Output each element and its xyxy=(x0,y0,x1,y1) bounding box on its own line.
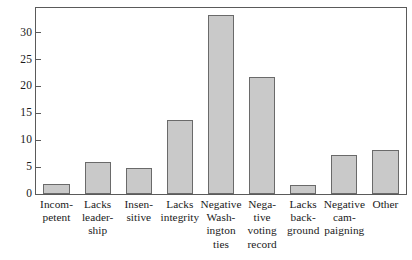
bar xyxy=(126,168,152,194)
y-axis-tick-mark xyxy=(35,167,41,168)
x-axis-category-label: Insen- sitive xyxy=(118,198,159,224)
bar xyxy=(331,155,357,194)
bar xyxy=(85,162,111,194)
y-axis-tick-label: 25 xyxy=(0,54,32,66)
y-axis-tick-mark xyxy=(35,113,41,114)
bar xyxy=(249,77,275,194)
x-axis-category-label: Negative cam- paigning xyxy=(324,198,365,238)
x-axis-category-labels: Incom- petentLacks leader- shipInsen- si… xyxy=(36,198,406,258)
y-axis-tick-mark xyxy=(35,32,41,33)
x-axis-category-label: Lacks integrity xyxy=(159,198,200,224)
y-axis-tick-label: 30 xyxy=(0,27,32,39)
y-axis-tick-label: 15 xyxy=(0,108,32,120)
bar xyxy=(372,150,398,194)
bar xyxy=(208,15,234,194)
x-axis-category-label: Other xyxy=(365,198,406,211)
plot-area xyxy=(36,8,406,194)
y-axis-tick-mark xyxy=(35,140,41,141)
y-axis-tick-label: 10 xyxy=(0,134,32,146)
y-axis-tick-mark xyxy=(35,86,41,87)
bar xyxy=(290,185,316,194)
x-axis-category-label: Lacks back- ground xyxy=(283,198,324,238)
x-axis-category-label: Lacks leader- ship xyxy=(77,198,118,238)
y-axis-tick-mark xyxy=(35,59,41,60)
y-axis-tick-labels: 051015202530 xyxy=(0,0,32,260)
y-axis-tick-label: 0 xyxy=(0,188,32,200)
y-axis-tick-label: 5 xyxy=(0,161,32,173)
x-axis-category-label: Incom- petent xyxy=(36,198,77,224)
bar xyxy=(167,120,193,194)
bar-chart: 051015202530 Incom- petentLacks leader- … xyxy=(0,0,412,260)
bar xyxy=(43,184,69,194)
y-axis-tick-label: 20 xyxy=(0,81,32,93)
x-axis-category-label: Nega- tive voting record xyxy=(242,198,283,251)
x-axis-category-label: Negative Wash- ington ties xyxy=(200,198,241,251)
